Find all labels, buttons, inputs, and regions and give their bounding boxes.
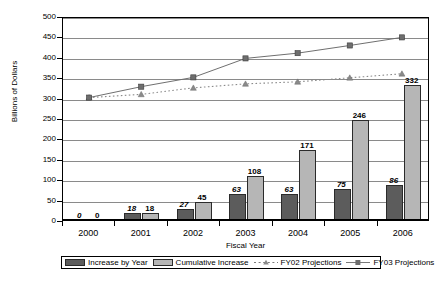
x-axis-tick-mark: [167, 221, 168, 226]
legend-line-fy02-projections: [254, 258, 278, 267]
bar-value-label: 86: [389, 176, 398, 185]
legend-swatch-cumulative-increase: [153, 259, 173, 266]
legend-swatch-increase-by-year: [65, 259, 85, 266]
y-axis-tick-label: 150: [43, 156, 56, 164]
legend-item: FY03 Projections: [346, 258, 434, 267]
chart-legend: Increase by YearCumulative IncreaseFY02 …: [61, 256, 381, 269]
legend-item: FY02 Projections: [254, 258, 342, 267]
y-axis-tick-label: 0: [52, 217, 56, 225]
bar-value-label: 0: [77, 211, 81, 220]
y-axis-tick-label: 100: [43, 176, 56, 184]
bar-value-label: 27: [180, 200, 189, 209]
x-axis-tick-label: 2001: [131, 228, 151, 238]
bar-value-label: 171: [300, 141, 313, 150]
legend-label: FY03 Projections: [373, 258, 434, 267]
x-axis-tick-mark: [114, 221, 115, 226]
bar-value-labels: 018276363758601845108171246332: [62, 17, 429, 221]
bar-value-label: 332: [405, 76, 418, 85]
y-axis-tick-label: 450: [43, 33, 56, 41]
x-axis-tick-mark: [62, 221, 63, 226]
y-axis-tick-label: 200: [43, 135, 56, 143]
y-axis-tick-label: 250: [43, 115, 56, 123]
bar-value-label: 63: [232, 185, 241, 194]
x-axis-tick-label: 2002: [183, 228, 203, 238]
bar-value-label: 45: [198, 193, 207, 202]
x-axis: Fiscal Year 2000200120022003200420052006: [62, 221, 429, 255]
x-axis-tick-mark: [219, 221, 220, 226]
y-axis-tick-label: 500: [43, 13, 56, 21]
legend-line-fy03-projections: [346, 258, 370, 267]
legend-item: Increase by Year: [65, 258, 148, 267]
y-axis-tick-label: 350: [43, 74, 56, 82]
x-axis-title: Fiscal Year: [62, 241, 429, 250]
legend-label: Increase by Year: [88, 258, 148, 267]
legend-item: Cumulative Increase: [153, 258, 249, 267]
x-axis-tick-label: 2005: [340, 228, 360, 238]
x-axis-tick-label: 2003: [235, 228, 255, 238]
bar-value-label: 246: [353, 111, 366, 120]
bar-value-label: 108: [248, 167, 261, 176]
y-axis-tick-label: 50: [47, 197, 56, 205]
y-axis-tick-label: 300: [43, 95, 56, 103]
chart-container: 050100150200250300350400450500 Billions …: [0, 0, 443, 281]
legend-label: Cumulative Increase: [176, 258, 249, 267]
legend-label: FY02 Projections: [281, 258, 342, 267]
y-axis-title: Billions of Dollars: [10, 27, 19, 157]
bar-value-label: 63: [284, 185, 293, 194]
x-axis-tick-label: 2006: [393, 228, 413, 238]
bar-value-label: 0: [95, 211, 99, 220]
bar-value-label: 18: [127, 204, 136, 213]
bar-value-label: 18: [145, 204, 154, 213]
x-axis-tick-mark: [272, 221, 273, 226]
x-axis-tick-mark: [324, 221, 325, 226]
x-axis-tick-label: 2000: [78, 228, 98, 238]
bar-value-label: 75: [337, 180, 346, 189]
x-axis-tick-mark: [377, 221, 378, 226]
y-axis-tick-label: 400: [43, 54, 56, 62]
x-axis-tick-label: 2004: [288, 228, 308, 238]
